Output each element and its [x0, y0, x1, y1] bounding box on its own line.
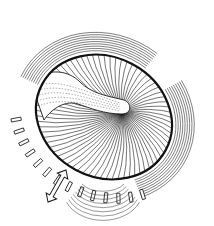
bottom-concentric-arcs [67, 184, 140, 220]
line-art-figure [0, 0, 214, 226]
illustration-canvas [0, 0, 214, 226]
